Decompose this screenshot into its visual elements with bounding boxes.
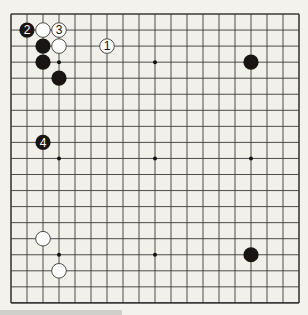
black-stone: 2 — [19, 22, 34, 37]
white-stone-body — [52, 264, 67, 279]
star-point — [57, 60, 61, 64]
go-board-diagram: 2314 — [0, 0, 308, 315]
white-stone — [36, 23, 51, 38]
white-stone — [52, 264, 67, 279]
move-number-label: 4 — [40, 136, 47, 150]
black-stone — [35, 55, 50, 70]
star-point — [153, 156, 157, 160]
star-point — [153, 60, 157, 64]
go-board: 2314 — [0, 0, 308, 315]
black-stone-body — [51, 71, 66, 86]
white-stone — [36, 231, 51, 246]
black-stone — [35, 39, 50, 54]
star-point — [57, 156, 61, 160]
black-stone: 4 — [35, 135, 50, 150]
black-stone-body — [243, 55, 258, 70]
move-number-label: 1 — [104, 39, 111, 53]
black-stone-body — [35, 55, 50, 70]
black-stone — [51, 71, 66, 86]
star-point — [57, 253, 61, 257]
white-stone-body — [52, 39, 67, 54]
black-stone-body — [35, 39, 50, 54]
black-stone — [243, 247, 258, 262]
white-stone-body — [36, 23, 51, 38]
white-stone — [52, 39, 67, 54]
move-number-label: 2 — [24, 23, 31, 37]
white-stone: 1 — [100, 39, 115, 54]
move-number-label: 3 — [56, 23, 63, 37]
white-stone: 3 — [52, 23, 67, 38]
black-stone — [243, 55, 258, 70]
star-point — [153, 253, 157, 257]
white-stone-body — [36, 231, 51, 246]
page-edge-bar — [0, 310, 122, 315]
star-point — [249, 156, 253, 160]
black-stone-body — [243, 247, 258, 262]
